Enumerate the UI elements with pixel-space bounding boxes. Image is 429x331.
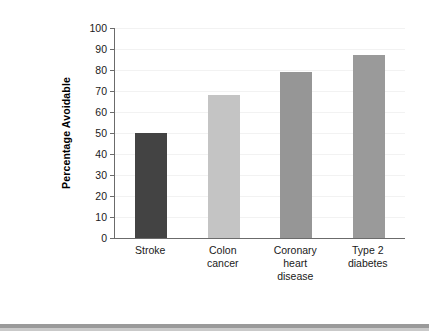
- bar-chart-figure: Percentage Avoidable 0102030405060708090…: [0, 0, 429, 331]
- y-axis-tick-label: 10: [95, 212, 107, 223]
- y-axis-tick-label: 100: [89, 23, 107, 34]
- y-axis-tick-label: 30: [95, 170, 107, 181]
- y-axis-tick-mark: [110, 70, 115, 71]
- y-axis-tick-label: 40: [95, 149, 107, 160]
- bar: [135, 133, 167, 238]
- x-axis-tick-label: Coronary heart disease: [259, 244, 332, 283]
- y-axis-tick-mark: [110, 238, 115, 239]
- y-axis-tick-mark: [110, 175, 115, 176]
- y-axis-tick-label: 90: [95, 44, 107, 55]
- bar: [353, 55, 385, 238]
- y-axis-tick-label: 0: [101, 233, 107, 244]
- y-axis-tick-mark: [110, 112, 115, 113]
- y-axis-tick-mark: [110, 49, 115, 50]
- y-axis-tick-mark: [110, 91, 115, 92]
- x-axis-tick-label: Stroke: [114, 244, 187, 257]
- gridline: [115, 49, 405, 50]
- plot-area: 0102030405060708090100: [114, 28, 405, 239]
- y-axis-tick-mark: [110, 154, 115, 155]
- y-axis-tick-label: 50: [95, 128, 107, 139]
- y-axis-tick-mark: [110, 28, 115, 29]
- y-axis-tick-mark: [110, 217, 115, 218]
- y-axis-title-label: Percentage Avoidable: [60, 77, 72, 189]
- y-axis-tick-mark: [110, 133, 115, 134]
- bar: [280, 72, 312, 238]
- y-axis-tick-label: 80: [95, 65, 107, 76]
- gridline: [115, 28, 405, 29]
- bar: [208, 95, 240, 238]
- x-axis-tick-label: Type 2 diabetes: [332, 244, 405, 270]
- y-axis-tick-label: 70: [95, 86, 107, 97]
- y-axis-tick-mark: [110, 196, 115, 197]
- y-axis-tick-label: 20: [95, 191, 107, 202]
- x-axis-tick-label: Colon cancer: [187, 244, 260, 270]
- y-axis-tick-label: 60: [95, 107, 107, 118]
- y-axis-title: Percentage Avoidable: [58, 28, 74, 238]
